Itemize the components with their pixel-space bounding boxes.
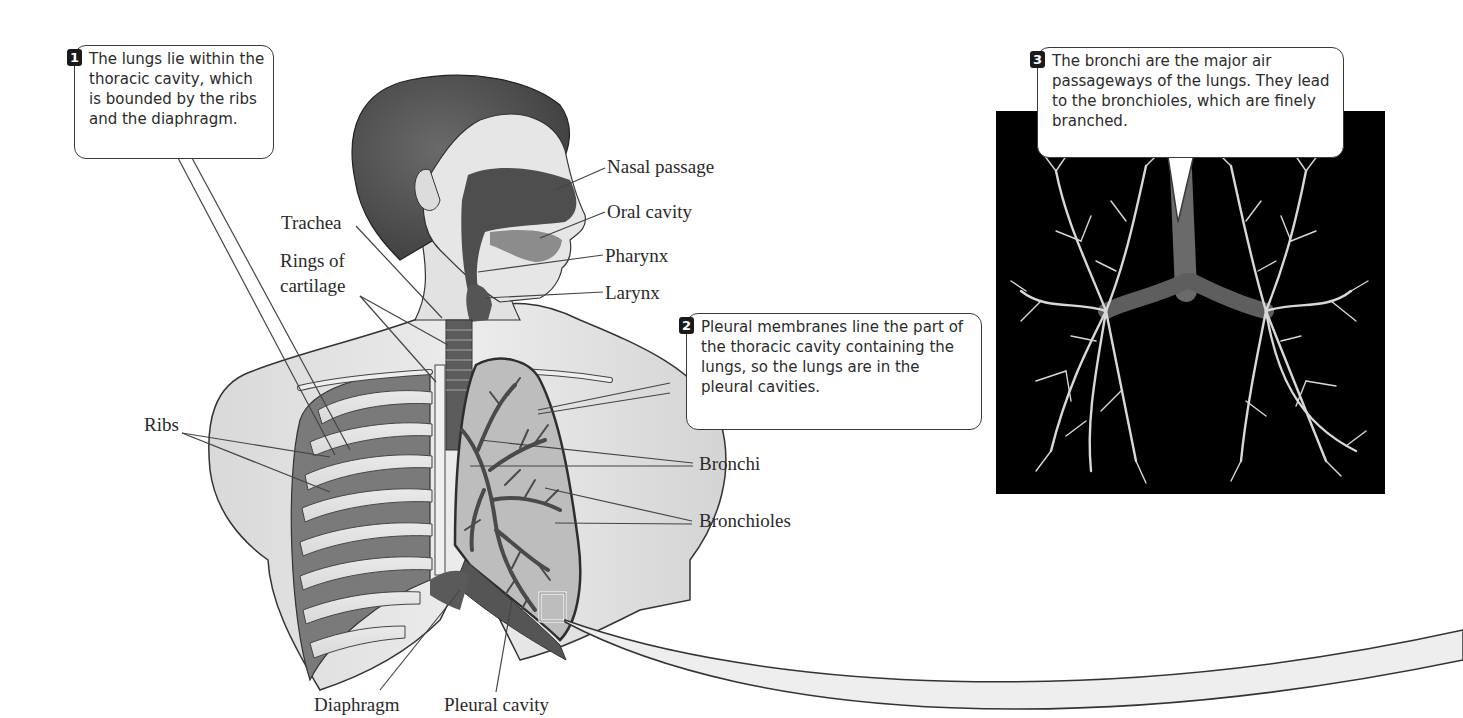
label-rings-of-cartilage-1: Rings of: [280, 250, 345, 272]
label-nasal-passage: Nasal passage: [607, 156, 714, 178]
magnifier-band: [565, 620, 1463, 709]
label-larynx: Larynx: [605, 282, 660, 304]
callout-number-badge: 3: [1030, 51, 1045, 68]
callout-2: 2 Pleural membranes line the part of the…: [686, 313, 982, 430]
label-pleural-cavity: Pleural cavity: [444, 694, 549, 716]
callout-3-pointer: [1150, 150, 1230, 230]
label-trachea: Trachea: [281, 212, 342, 234]
sternum: [435, 365, 445, 575]
callout-1: 1 The lungs lie within the thoracic cavi…: [74, 45, 274, 159]
callout-text: The lungs lie within the thoracic cavity…: [83, 49, 265, 129]
callout-text: Pleural membranes line the part of the t…: [695, 317, 973, 397]
callout-3: 3 The bronchi are the major air passagew…: [1037, 47, 1344, 158]
label-bronchioles: Bronchioles: [699, 510, 791, 532]
callout-number-badge: 1: [67, 49, 82, 66]
callout-number-badge: 2: [679, 317, 694, 334]
label-bronchi: Bronchi: [699, 453, 760, 475]
head: [352, 75, 585, 322]
label-diaphragm: Diaphragm: [314, 694, 399, 716]
label-ribs: Ribs: [144, 414, 179, 436]
label-rings-of-cartilage-2: cartilage: [280, 275, 345, 297]
label-pharynx: Pharynx: [605, 245, 668, 267]
callout-text: The bronchi are the major air passageway…: [1046, 51, 1335, 131]
label-oral-cavity: Oral cavity: [607, 201, 692, 223]
